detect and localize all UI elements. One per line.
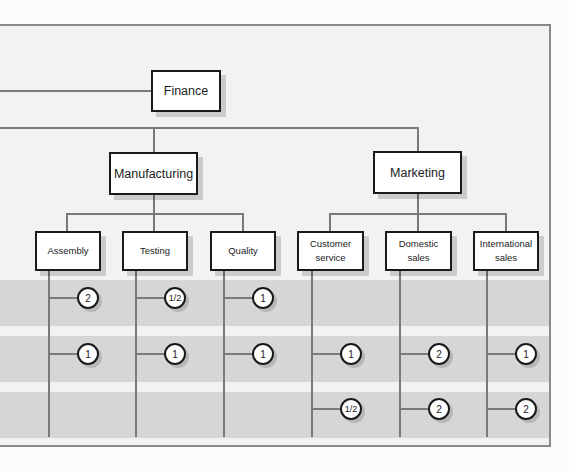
domestic-sales-box: Domesticsales bbox=[385, 231, 452, 271]
tick bbox=[486, 408, 516, 410]
count-badge-domestic-sales-row3: 2 bbox=[428, 398, 450, 420]
tick bbox=[135, 297, 165, 299]
domestic-sales-connector bbox=[417, 213, 419, 232]
manufacturing-connector bbox=[153, 127, 155, 153]
band-row-3 bbox=[0, 392, 549, 438]
finance-left-connector bbox=[0, 90, 152, 92]
finance-label: Finance bbox=[164, 84, 208, 98]
international-sales-connector bbox=[505, 213, 507, 232]
customer-service-label-line1: Customer bbox=[310, 237, 351, 251]
tick bbox=[48, 297, 78, 299]
assembly-connector bbox=[66, 213, 68, 232]
manufacturing-box: Manufacturing bbox=[109, 152, 198, 195]
quality-connector bbox=[242, 213, 244, 232]
count-badge-international-sales-row2: 1 bbox=[515, 343, 537, 365]
count-badge-quality-row1: 1 bbox=[252, 287, 274, 309]
quality-box: Quality bbox=[210, 231, 276, 271]
domestic-sales-label-line2: sales bbox=[407, 251, 429, 265]
tick bbox=[311, 353, 341, 355]
count-badge-customer-service-row2: 1 bbox=[340, 343, 362, 365]
manufacturing-branch-line bbox=[66, 213, 244, 215]
quality-label: Quality bbox=[228, 244, 258, 258]
tick bbox=[223, 353, 253, 355]
tick bbox=[399, 408, 429, 410]
marketing-label: Marketing bbox=[390, 166, 445, 180]
tick bbox=[311, 408, 341, 410]
tick bbox=[399, 353, 429, 355]
count-badge-testing-row1: 1/2 bbox=[164, 287, 186, 309]
assembly-box: Assembly bbox=[35, 231, 101, 271]
count-badge-quality-row2: 1 bbox=[252, 343, 274, 365]
testing-connector bbox=[153, 213, 155, 232]
customer-service-box: Customerservice bbox=[297, 231, 364, 271]
assembly-label: Assembly bbox=[47, 244, 88, 258]
manufacturing-down-connector bbox=[153, 194, 155, 214]
marketing-box: Marketing bbox=[373, 151, 462, 194]
international-sales-label-line1: International bbox=[480, 237, 532, 251]
international-sales-box: Internationalsales bbox=[473, 231, 539, 271]
finance-box: Finance bbox=[151, 70, 221, 112]
domestic-sales-label-line1: Domestic bbox=[399, 237, 439, 251]
tick bbox=[135, 353, 165, 355]
division-connector bbox=[0, 127, 419, 129]
tick bbox=[223, 297, 253, 299]
count-badge-assembly-row1: 2 bbox=[77, 287, 99, 309]
manufacturing-label: Manufacturing bbox=[114, 167, 193, 181]
count-badge-domestic-sales-row2: 2 bbox=[428, 343, 450, 365]
testing-label: Testing bbox=[140, 244, 170, 258]
testing-box: Testing bbox=[122, 231, 188, 271]
count-badge-international-sales-row3: 2 bbox=[515, 398, 537, 420]
marketing-connector bbox=[417, 127, 419, 152]
customer-service-connector bbox=[329, 213, 331, 232]
count-badge-assembly-row2: 1 bbox=[77, 343, 99, 365]
tick bbox=[48, 353, 78, 355]
customer-service-label-line2: service bbox=[315, 251, 345, 265]
tick bbox=[486, 353, 516, 355]
international-sales-label-line2: sales bbox=[495, 251, 517, 265]
count-badge-customer-service-row3: 1/2 bbox=[340, 398, 362, 420]
count-badge-testing-row2: 1 bbox=[164, 343, 186, 365]
marketing-down-connector bbox=[417, 193, 419, 214]
